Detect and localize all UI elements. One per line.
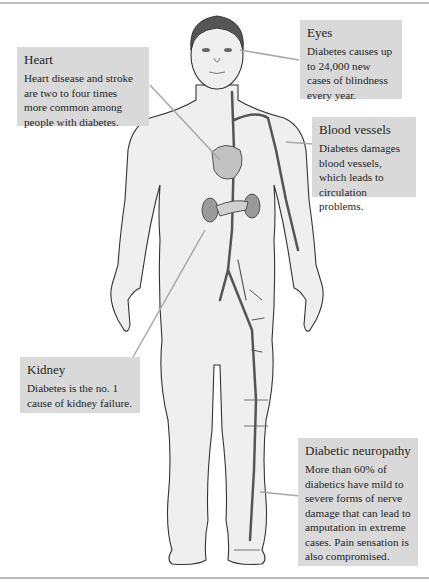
callout-blood-vessels-body: Diabetes damages blood vessels, which le…: [319, 141, 409, 214]
callout-heart: Heart Heart disease and stroke are two t…: [17, 47, 149, 126]
callout-neuropathy: Diabetic neuropathy More than 60% of dia…: [298, 438, 418, 566]
callout-kidney-body: Diabetes is the no. 1 cause of kidney fa…: [27, 381, 133, 410]
callout-blood-vessels: Blood vessels Diabetes damages blood ves…: [312, 117, 416, 197]
callout-heart-body: Heart disease and stroke are two to four…: [24, 71, 142, 129]
callout-heart-title: Heart: [24, 52, 142, 68]
bottom-rule: [0, 577, 429, 579]
callout-neuropathy-title: Diabetic neuropathy: [305, 443, 411, 459]
callout-kidney-title: Kidney: [27, 362, 133, 378]
callout-kidney: Kidney Diabetes is the no. 1 cause of ki…: [20, 357, 140, 413]
callout-eyes-body: Diabetes causes up to 24,000 new cases o…: [307, 44, 395, 102]
callout-blood-vessels-title: Blood vessels: [319, 122, 409, 138]
callout-eyes-title: Eyes: [307, 25, 395, 41]
callout-eyes: Eyes Diabetes causes up to 24,000 new ca…: [300, 20, 402, 99]
head: [191, 16, 244, 89]
callout-neuropathy-body: More than 60% of diabetics have mild to …: [305, 462, 411, 564]
